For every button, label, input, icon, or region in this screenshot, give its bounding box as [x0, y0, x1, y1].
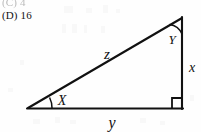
right-angle-marker: [172, 98, 182, 108]
label-angle-x: X: [57, 93, 67, 108]
right-triangle-figure: z x y X Y: [0, 0, 201, 132]
angle-arc-x: [50, 98, 52, 109]
scanned-page: (C)4 (D)16 z x y X: [0, 0, 201, 132]
hypotenuse-line: [28, 18, 182, 108]
label-angle-y: Y: [168, 32, 177, 47]
label-horizontal-y: y: [106, 114, 116, 132]
label-vertical-x: x: [188, 60, 196, 75]
label-hypotenuse-z: z: [103, 46, 110, 62]
